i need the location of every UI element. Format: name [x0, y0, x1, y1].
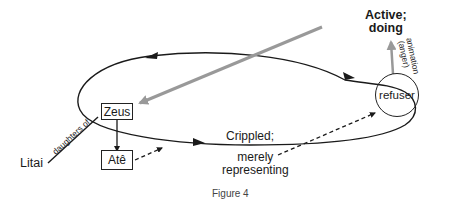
representing-dashed-arrow [278, 113, 375, 155]
gray-arrow-animation [391, 42, 393, 74]
zeus-label: Zeus [104, 105, 131, 119]
doing-text: doing [365, 22, 407, 35]
litai-label: Litai [20, 157, 43, 170]
figure-caption: Figure 4 [212, 189, 249, 199]
loop-arrow-top-left [145, 52, 158, 59]
representing-text: representing [222, 164, 289, 177]
active-doing-label: Active; doing [365, 9, 407, 35]
refuser-label: refuser [379, 89, 415, 101]
zeus-node: Zeus [101, 103, 133, 120]
ate-dashed-arrow [135, 148, 162, 160]
ate-label: Atê [108, 153, 126, 167]
refuser-node: refuser [375, 73, 419, 117]
loop-arrow-bottom [193, 138, 205, 146]
ate-node: Atê [101, 150, 133, 170]
gray-arrow-to-zeus [140, 27, 322, 103]
loop-arrow-top-right [343, 72, 355, 80]
crippled-label: Crippled; [226, 130, 274, 143]
merely-representing-label: merely representing [222, 151, 289, 177]
